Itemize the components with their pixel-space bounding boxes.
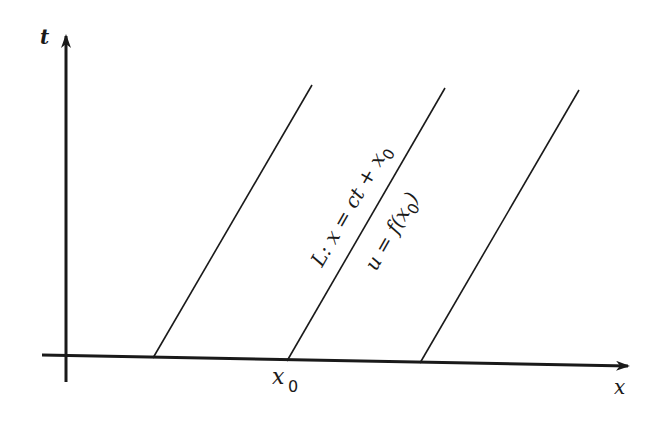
x-axis-label: x	[614, 375, 625, 399]
svg-text:u = f(x0): u = f(x0)	[360, 188, 428, 277]
diagram-canvas: t x x 0 L: x = ct + x0 u = f(x0)	[0, 0, 654, 424]
svg-text:x: x	[272, 364, 285, 389]
characteristic-line-1	[153, 85, 312, 358]
characteristic-line-3	[420, 90, 579, 363]
svg-text:0: 0	[288, 377, 298, 396]
x-axis	[42, 355, 628, 366]
characteristic-line-2	[287, 88, 445, 361]
x0-label: x 0	[272, 364, 298, 396]
value-label: u = f(x0)	[360, 188, 428, 277]
t-axis-label: t	[40, 25, 50, 49]
